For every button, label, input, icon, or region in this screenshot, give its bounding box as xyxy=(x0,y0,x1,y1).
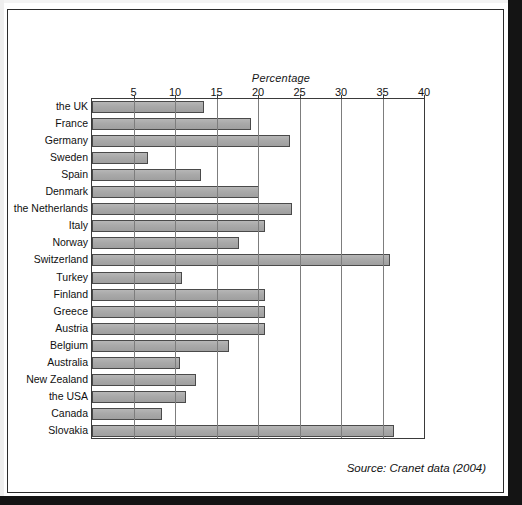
tickmark-15 xyxy=(217,95,218,99)
gridline-25 xyxy=(300,99,301,438)
scan-edge-right xyxy=(508,0,522,505)
tickmark-30 xyxy=(341,95,342,99)
category-label-greece: Greece xyxy=(8,306,88,317)
x-axis-title: Percentage xyxy=(221,72,341,84)
tickmark-35 xyxy=(383,95,384,99)
bar[interactable] xyxy=(92,425,394,437)
bar[interactable] xyxy=(92,220,265,232)
bar[interactable] xyxy=(92,357,180,369)
bar[interactable] xyxy=(92,152,148,164)
bar[interactable] xyxy=(92,289,265,301)
gridline-30 xyxy=(341,99,342,438)
gridline-15 xyxy=(217,99,218,438)
bar[interactable] xyxy=(92,101,204,113)
bar[interactable] xyxy=(92,340,229,352)
category-label-slovakia: Slovakia xyxy=(8,425,88,436)
category-label-new-zealand: New Zealand xyxy=(8,374,88,385)
category-label-switzerland: Switzerland xyxy=(8,254,88,265)
bar[interactable] xyxy=(92,203,292,215)
tickmark-25 xyxy=(300,95,301,99)
tickmark-5 xyxy=(134,95,135,99)
bar-chart: Percentage 510152025303540 the UKFranceG… xyxy=(8,10,505,494)
category-label-sweden: Sweden xyxy=(8,152,88,163)
source-note: Source: Cranet data (2004) xyxy=(8,462,486,474)
bar[interactable] xyxy=(92,118,251,130)
category-label-belgium: Belgium xyxy=(8,340,88,351)
category-label-norway: Norway xyxy=(8,237,88,248)
category-label-the-netherlands: the Netherlands xyxy=(8,203,88,214)
category-label-spain: Spain xyxy=(8,169,88,180)
category-label-germany: Germany xyxy=(8,135,88,146)
bar[interactable] xyxy=(92,272,182,284)
bar[interactable] xyxy=(92,135,290,147)
category-axis-labels: the UKFranceGermanySwedenSpainDenmarkthe… xyxy=(8,98,88,439)
tickmark-40 xyxy=(424,95,425,99)
plot-area xyxy=(91,98,425,439)
scan-edge-bottom xyxy=(0,496,522,505)
bar[interactable] xyxy=(92,306,265,318)
bar[interactable] xyxy=(92,374,196,386)
tickmark-10 xyxy=(175,95,176,99)
scan-edge-top xyxy=(0,0,522,3)
category-label-denmark: Denmark xyxy=(8,186,88,197)
category-label-australia: Australia xyxy=(8,357,88,368)
page-sheet: Percentage 510152025303540 the UKFranceG… xyxy=(7,9,504,493)
category-label-turkey: Turkey xyxy=(8,272,88,283)
category-label-the-uk: the UK xyxy=(8,101,88,112)
gridline-5 xyxy=(134,99,135,438)
bar[interactable] xyxy=(92,323,265,335)
bar[interactable] xyxy=(92,391,186,403)
category-label-finland: Finland xyxy=(8,289,88,300)
bar[interactable] xyxy=(92,254,390,266)
category-label-france: France xyxy=(8,118,88,129)
category-label-italy: Italy xyxy=(8,220,88,231)
tickmark-20 xyxy=(258,95,259,99)
gridline-10 xyxy=(175,99,176,438)
gridline-20 xyxy=(258,99,259,438)
category-label-austria: Austria xyxy=(8,323,88,334)
category-label-the-usa: the USA xyxy=(8,391,88,402)
scan-edge-left xyxy=(0,0,4,505)
bar[interactable] xyxy=(92,408,162,420)
gridline-35 xyxy=(383,99,384,438)
category-label-canada: Canada xyxy=(8,408,88,419)
bar[interactable] xyxy=(92,169,201,181)
